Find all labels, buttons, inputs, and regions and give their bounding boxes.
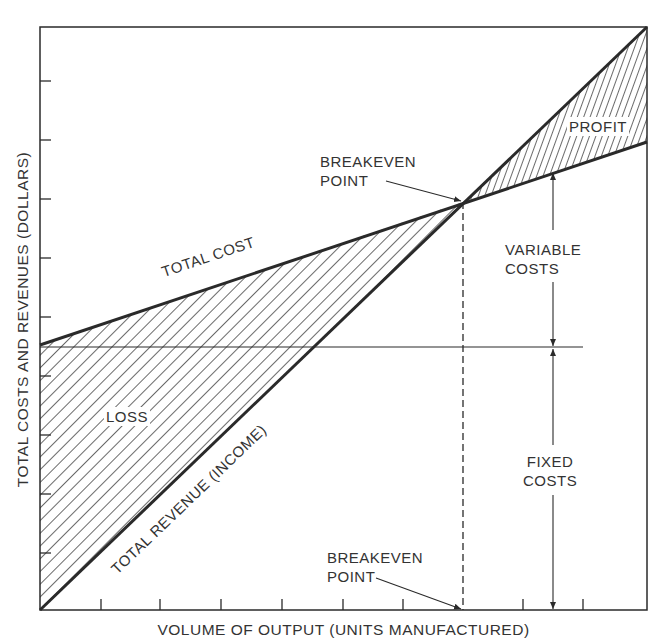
- variable-costs-line1: VARIABLE: [505, 240, 581, 259]
- variable-costs-label: VARIABLE COSTS: [505, 240, 581, 278]
- breakeven-top-line1: BREAKEVEN: [320, 152, 416, 171]
- x-axis-label: VOLUME OF OUTPUT (UNITS MANUFACTURED): [40, 620, 647, 639]
- profit-label: PROFIT: [567, 117, 629, 136]
- breakeven-top-label: BREAKEVEN POINT: [320, 152, 416, 190]
- y-axis-label: TOTAL COSTS AND REVENUES (DOLLARS): [13, 150, 32, 490]
- fixed-costs-label: FIXED COSTS: [523, 452, 577, 490]
- breakeven-bottom-label: BREAKEVEN POINT: [327, 548, 423, 586]
- breakeven-bottom-line1: BREAKEVEN: [327, 548, 423, 567]
- breakeven-top-line2: POINT: [320, 171, 416, 190]
- x-axis-ticks: [101, 599, 583, 610]
- breakeven-bottom-line2: POINT: [327, 567, 423, 586]
- variable-costs-line2: COSTS: [505, 259, 581, 278]
- fixed-costs-line2: COSTS: [523, 471, 577, 490]
- fixed-costs-line1: FIXED: [523, 452, 577, 471]
- loss-label: LOSS: [104, 407, 150, 426]
